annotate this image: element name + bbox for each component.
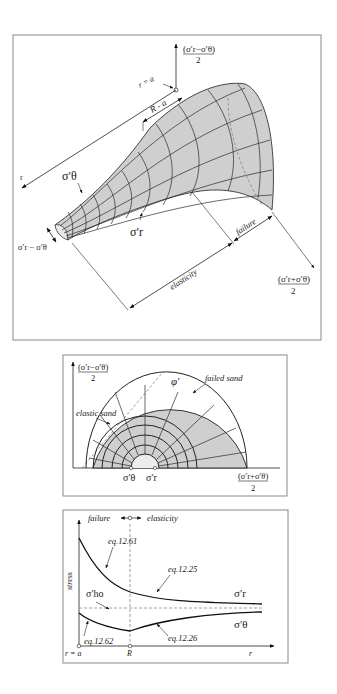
figure-canvas: (σ′r−σ′θ) 2 r = a R - a r σ′θ σ′r σ′r − … xyxy=(0,0,337,694)
elastic-sand-label: elastic sand xyxy=(76,408,117,418)
sigma-theta-point xyxy=(129,466,132,469)
r-axis-label: r xyxy=(20,173,23,182)
cavity-radius-label: r = a xyxy=(65,649,82,658)
svg-text:2: 2 xyxy=(291,286,296,296)
sigma-theta-label: σ′θ xyxy=(123,472,136,483)
plastic-radius-point xyxy=(128,644,132,648)
eq-12-61-label: eq.12.61 xyxy=(108,536,137,546)
bottom-panel-stress-distribution: stress failure elasticity eq.12.61 eq.12… xyxy=(63,510,288,663)
middle-panel-mohr-circles: (σ′r−σ′θ) 2 φ′ failed sand elastic sand … xyxy=(63,355,287,496)
cavity-radius-point xyxy=(77,644,81,648)
svg-text:2: 2 xyxy=(251,483,255,493)
deviator-label: σ′r − σ′θ xyxy=(18,242,47,252)
sigma-theta-label: σ′θ xyxy=(234,618,248,630)
sigma-r-point xyxy=(153,466,156,469)
svg-text:(σ′r−σ′θ): (σ′r−σ′θ) xyxy=(183,44,215,54)
sigma-ho-label: σ′ho xyxy=(86,588,104,599)
failed-sand-label: failed sand xyxy=(205,373,243,383)
svg-text:(σ′r+σ′θ): (σ′r+σ′θ) xyxy=(238,471,268,481)
plastic-radius-label: R xyxy=(126,649,132,658)
svg-text:(σ′r−σ′θ): (σ′r−σ′θ) xyxy=(78,362,108,372)
svg-text:(σ′r+σ′θ): (σ′r+σ′θ) xyxy=(278,274,310,284)
eq-12-26-label: eq.12.26 xyxy=(168,633,198,643)
sigma-theta-label: σ′θ xyxy=(62,169,77,183)
elasticity-zone-label: elasticity xyxy=(147,513,178,523)
svg-text:2: 2 xyxy=(91,373,95,383)
svg-text:2: 2 xyxy=(196,55,201,65)
stress-axis-label: stress xyxy=(65,572,74,590)
eq-12-62-label: eq.12.62 xyxy=(84,636,114,646)
sigma-r-label: σ′r xyxy=(234,587,246,599)
eq-12-25-label: eq.12.25 xyxy=(168,564,197,574)
top-panel-3d-stress-surface: (σ′r−σ′θ) 2 r = a R - a r σ′θ σ′r σ′r − … xyxy=(13,35,321,340)
sigma-r-label: σ′r xyxy=(146,472,158,483)
failure-zone-label: failure xyxy=(88,513,111,523)
friction-angle-label: φ′ xyxy=(171,375,180,387)
sigma-r-label: σ′r xyxy=(130,225,143,239)
